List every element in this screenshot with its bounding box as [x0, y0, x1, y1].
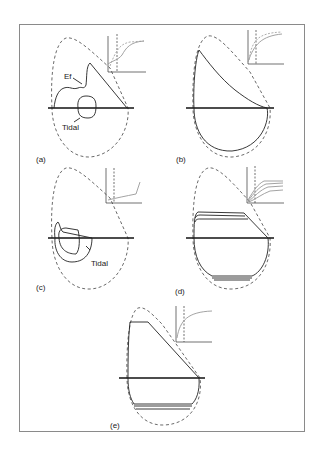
inset-curve-e — [177, 311, 212, 338]
max-envelope-b — [193, 36, 270, 157]
annotation-tidal-a: Tidal — [62, 123, 79, 132]
inset-c — [106, 168, 142, 203]
tidal-loop-c-outer — [55, 222, 92, 262]
inset-axes-c — [106, 168, 142, 203]
panel-b: (b) — [176, 30, 284, 164]
flow-loop-d-1 — [194, 212, 268, 276]
panel-label-d: (d) — [175, 287, 185, 296]
ef-pointer-a — [73, 78, 82, 84]
inset-b — [248, 30, 284, 64]
inset-dashed-curve-b — [249, 32, 282, 60]
inset-curve-b — [248, 34, 282, 62]
inset-d — [247, 166, 284, 203]
inset-a — [108, 34, 146, 72]
flow-loop-e-1 — [128, 322, 199, 404]
annotation-tidal-c: Tidal — [91, 259, 108, 268]
max-envelope-e — [127, 308, 201, 425]
panel-label-e: (e) — [110, 421, 120, 430]
panel-e: (e) — [110, 306, 212, 430]
panel-d: (d) — [175, 166, 284, 296]
panel-label-a: (a) — [36, 155, 46, 164]
inset-e — [176, 306, 212, 342]
ef-loop-a — [54, 63, 127, 108]
panel-c: Tidal (c) — [36, 168, 142, 292]
panel-label-c: (c) — [36, 283, 46, 292]
inset-axes-b — [248, 30, 284, 64]
tidal-pointer-c — [86, 246, 90, 250]
flow-loop-d-2 — [195, 215, 245, 218]
flow-volume-figure: Ef Tidal (a) (b) Tidal (c) — [0, 0, 322, 452]
panel-label-b: (b) — [176, 155, 186, 164]
flow-loop-d-3 — [195, 219, 248, 222]
inset-curve-c — [108, 182, 140, 200]
inset-dashed-curve-a — [110, 41, 144, 66]
tidal-loop-c-inner — [59, 228, 80, 254]
annotation-ef-a: Ef — [64, 72, 72, 81]
inset-curve-a — [108, 41, 144, 64]
tidal-loop-a — [78, 96, 96, 118]
flow-loop-b — [194, 50, 268, 151]
tidal-pointer-a — [74, 118, 80, 122]
panel-a: Ef Tidal (a) — [36, 34, 146, 164]
